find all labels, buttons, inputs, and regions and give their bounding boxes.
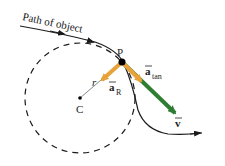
svg-text:v: v (175, 117, 181, 129)
radial-acceleration-label: a R (109, 81, 122, 97)
svg-text:tan: tan (152, 72, 162, 81)
point-c (78, 96, 82, 100)
radial-acceleration-arrow (102, 62, 122, 80)
svg-text:a: a (145, 65, 151, 77)
point-c-label: C (76, 103, 83, 115)
svg-text:R: R (116, 88, 122, 97)
point-p (119, 59, 126, 66)
motion-diagram: Path of object P C r a R a tan v (0, 0, 225, 166)
point-p-label: P (117, 46, 123, 58)
tangential-acceleration-label: a tan (145, 65, 162, 81)
svg-text:a: a (109, 81, 115, 93)
velocity-label: v (175, 117, 182, 129)
radius-label: r (92, 76, 97, 88)
